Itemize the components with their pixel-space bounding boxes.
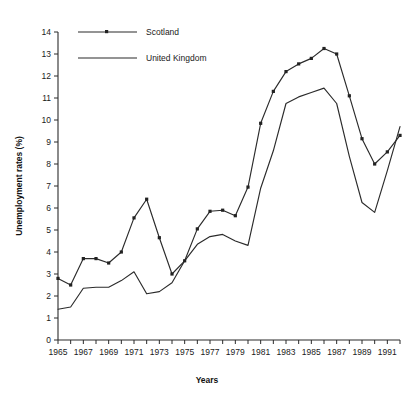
legend-label-scotland: Scotland — [146, 27, 179, 37]
y-tick-label: 5 — [46, 225, 51, 235]
y-tick-label: 0 — [46, 335, 51, 345]
data-point-marker — [94, 257, 97, 260]
y-tick-label: 2 — [46, 291, 51, 301]
data-point-marker — [272, 90, 275, 93]
data-point-marker — [56, 277, 59, 280]
data-point-marker — [259, 122, 262, 125]
x-tick-label: 1991 — [378, 347, 397, 357]
data-point-marker — [360, 137, 363, 140]
data-point-marker — [386, 150, 389, 153]
data-point-marker — [107, 261, 110, 264]
x-tick-label: 1969 — [99, 347, 118, 357]
data-point-marker — [170, 272, 173, 275]
x-tick-label: 1965 — [49, 347, 68, 357]
x-tick-label: 1971 — [125, 347, 144, 357]
unemployment-rates-line-chart: 01234567891011121314 1965196719691971197… — [0, 0, 417, 402]
data-point-marker — [69, 283, 72, 286]
data-point-marker — [310, 57, 313, 60]
data-point-marker — [234, 214, 237, 217]
y-tick-label: 4 — [46, 247, 51, 257]
x-tick-label: 1979 — [226, 347, 245, 357]
x-tick-label: 1975 — [175, 347, 194, 357]
data-point-marker — [132, 216, 135, 219]
y-tick-label: 11 — [42, 93, 51, 103]
data-point-marker — [322, 47, 325, 50]
y-tick-label: 1 — [46, 313, 51, 323]
y-tick-label: 7 — [46, 181, 51, 191]
x-tick-label: 1983 — [277, 347, 296, 357]
x-tick-label: 1977 — [201, 347, 220, 357]
data-point-marker — [373, 162, 376, 165]
y-axis-title: Unemployment rates (%) — [14, 136, 24, 236]
y-tick-label: 12 — [42, 71, 52, 81]
x-axis-title: Years — [196, 375, 219, 385]
data-point-marker — [208, 210, 211, 213]
x-tick-label: 1989 — [353, 347, 372, 357]
y-tick-label: 14 — [42, 27, 52, 37]
y-tick-label: 10 — [42, 115, 52, 125]
y-tick-label: 8 — [46, 159, 51, 169]
x-tick-label: 1967 — [74, 347, 93, 357]
data-point-marker — [221, 209, 224, 212]
data-point-marker — [398, 134, 401, 137]
data-point-marker — [196, 227, 199, 230]
legend-marker-scotland — [105, 30, 108, 33]
data-point-marker — [120, 250, 123, 253]
chart-background — [0, 0, 417, 402]
x-tick-label: 1987 — [327, 347, 346, 357]
data-point-marker — [158, 236, 161, 239]
y-tick-label: 13 — [42, 49, 52, 59]
y-tick-label: 9 — [46, 137, 51, 147]
y-tick-label: 6 — [46, 203, 51, 213]
legend-label-united-kingdom: United Kingdom — [146, 53, 206, 63]
x-tick-label: 1985 — [302, 347, 321, 357]
y-tick-label: 3 — [46, 269, 51, 279]
data-point-marker — [82, 257, 85, 260]
x-tick-label: 1973 — [150, 347, 169, 357]
data-point-marker — [183, 259, 186, 262]
x-tick-label: 1981 — [251, 347, 270, 357]
data-point-marker — [246, 186, 249, 189]
data-point-marker — [145, 198, 148, 201]
data-point-marker — [284, 70, 287, 73]
data-point-marker — [335, 52, 338, 55]
data-point-marker — [348, 94, 351, 97]
data-point-marker — [297, 62, 300, 65]
